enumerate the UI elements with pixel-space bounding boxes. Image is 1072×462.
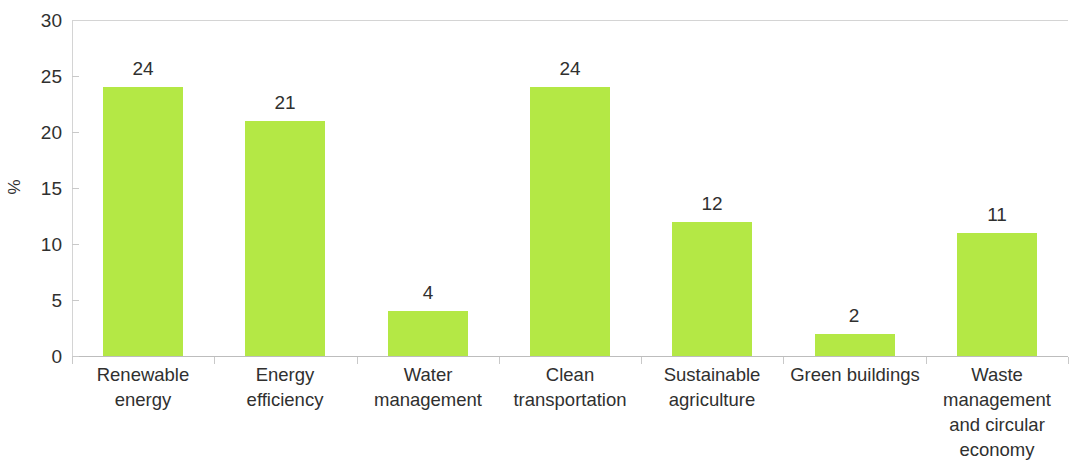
category-label-line: Energy [210,362,360,387]
bar-value-label: 11 [926,205,1068,224]
bar[interactable] [103,87,183,356]
x-axis-category-labels: RenewableenergyEnergyefficiencyWatermana… [0,362,1068,448]
bar[interactable] [245,121,325,356]
bar[interactable] [815,334,895,356]
bar-value-label: 24 [499,59,641,78]
bar-value-label: 24 [72,59,214,78]
category-label-line: transportation [495,387,645,412]
category-label: Energyefficiency [210,362,360,412]
bar-value-label: 12 [641,194,783,213]
bar[interactable] [957,233,1037,356]
category-label-line: management [353,387,503,412]
category-label-line: Waste [922,362,1072,387]
bar-value-label: 4 [357,283,499,302]
category-label-line: efficiency [210,387,360,412]
category-label-line: economy [922,437,1072,462]
category-label: Cleantransportation [495,362,645,412]
category-label: Renewableenergy [68,362,218,412]
bar-value-label: 2 [783,306,925,325]
category-label-line: management [922,387,1072,412]
category-label-line: Water [353,362,503,387]
bar[interactable] [672,222,752,356]
bar[interactable] [388,311,468,356]
category-label-line: Renewable [68,362,218,387]
category-label-line: Clean [495,362,645,387]
category-label-line: agriculture [637,387,787,412]
category-label-line: and circular [922,412,1072,437]
bar[interactable] [530,87,610,356]
bars-layer: 242142412211 [0,0,1068,357]
category-label: Watermanagement [353,362,503,412]
category-label: Wastemanagementand circulareconomy [922,362,1072,462]
bar-value-label: 21 [214,93,356,112]
category-label-line: energy [68,387,218,412]
